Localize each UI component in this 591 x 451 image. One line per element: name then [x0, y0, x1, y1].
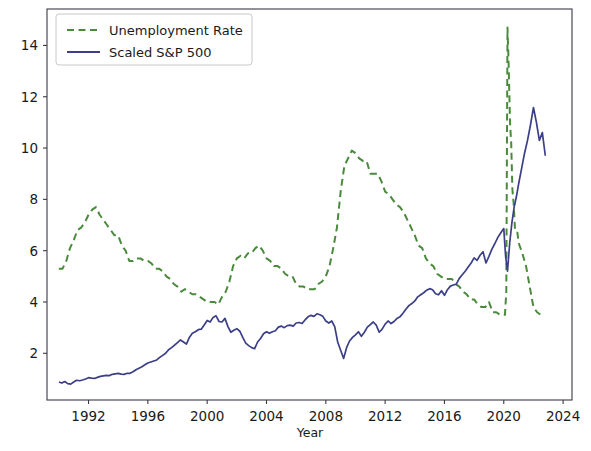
y-tick-label: 2: [29, 345, 38, 361]
x-axis-ticks: 199219962000200420082012201620202024: [71, 400, 580, 424]
chart-figure: 199219962000200420082012201620202024 246…: [0, 0, 591, 451]
legend-label-0: Unemployment Rate: [109, 23, 243, 38]
x-tick-label: 2024: [546, 408, 580, 424]
x-tick-label: 2020: [487, 408, 521, 424]
y-axis-ticks: 2468101214: [21, 37, 47, 361]
x-tick-label: 1992: [71, 408, 105, 424]
legend-label-1: Scaled S&P 500: [109, 45, 212, 60]
y-tick-label: 14: [21, 37, 38, 53]
y-tick-label: 4: [29, 294, 38, 310]
line-chart-canvas: 199219962000200420082012201620202024 246…: [0, 0, 591, 451]
y-tick-label: 10: [21, 140, 38, 156]
y-tick-label: 12: [21, 89, 38, 105]
x-tick-label: 2012: [368, 408, 402, 424]
y-tick-label: 6: [29, 243, 38, 259]
x-tick-label: 2000: [190, 408, 224, 424]
chart-legend[interactable]: Unemployment RateScaled S&P 500: [56, 14, 252, 65]
y-tick-label: 8: [29, 191, 38, 207]
x-axis-label: Year: [296, 425, 324, 440]
x-tick-label: 2016: [427, 408, 461, 424]
x-tick-label: 2008: [309, 408, 343, 424]
plot-background: [47, 9, 572, 400]
x-tick-label: 1996: [131, 408, 165, 424]
x-tick-label: 2004: [249, 408, 283, 424]
